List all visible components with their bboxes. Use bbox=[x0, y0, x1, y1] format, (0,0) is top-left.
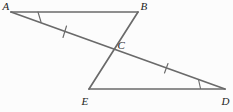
angle-mark-A bbox=[38, 12, 41, 22]
segment-AD bbox=[11, 12, 225, 89]
point-label-A: A bbox=[2, 0, 10, 12]
diagram-canvas: ABCED bbox=[0, 0, 233, 112]
geometry-figure: ABCED bbox=[0, 0, 233, 112]
point-label-B: B bbox=[141, 0, 148, 12]
segment-BE bbox=[89, 12, 138, 89]
point-label-E: E bbox=[81, 95, 89, 107]
point-label-D: D bbox=[221, 95, 230, 107]
point-label-C: C bbox=[118, 39, 126, 51]
